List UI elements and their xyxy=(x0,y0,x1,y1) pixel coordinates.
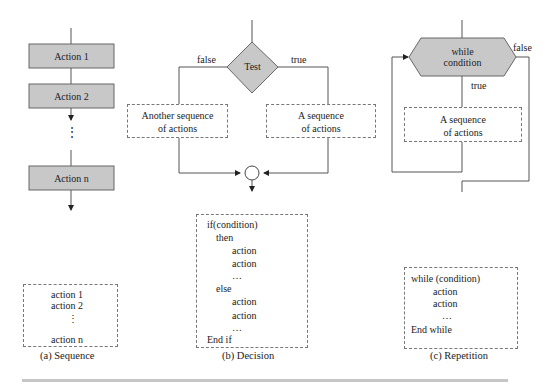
true-label: true xyxy=(291,54,307,65)
false-branch-box: Another sequence of actions xyxy=(127,104,228,138)
pseudocode-line: End while xyxy=(411,324,452,337)
condition-line: condition xyxy=(421,57,504,68)
pseudocode-line: then xyxy=(216,232,233,245)
pseudocode-line: ⋮ xyxy=(68,313,78,326)
condition-line: while xyxy=(421,46,504,57)
pseudocode-line: action xyxy=(232,245,256,258)
true-branch-line: of actions xyxy=(267,123,375,136)
pseudocode-line: action 2 xyxy=(51,300,83,313)
pseudocode-line: action xyxy=(433,286,457,299)
pseudocode-line: … xyxy=(232,322,242,335)
loop-body-box: A sequence of actions xyxy=(404,107,522,142)
false-branch-line: of actions xyxy=(128,123,227,136)
bottom-divider xyxy=(22,379,508,382)
sequence-ellipsis: ⋮ xyxy=(66,127,76,138)
repetition-pseudocode: while (condition) action action … End wh… xyxy=(404,267,518,349)
while-condition-hexagon: while condition xyxy=(421,46,504,68)
pseudocode-line: … xyxy=(442,310,452,323)
decision-pseudocode: if(condition) then action action … else … xyxy=(196,214,308,348)
action-n-box: Action n xyxy=(29,173,114,184)
pseudocode-line: End if xyxy=(207,334,232,347)
loop-true-label: true xyxy=(471,80,487,91)
test-diamond: Test xyxy=(227,61,278,72)
caption-decision: (b) Decision xyxy=(222,350,274,361)
pseudocode-line: action xyxy=(232,296,256,309)
pseudocode-line: action n xyxy=(51,334,83,347)
pseudocode-line: action xyxy=(232,310,256,323)
true-branch-box: A sequence of actions xyxy=(266,104,376,138)
loop-false-label: false xyxy=(513,42,532,53)
false-branch-line: Another sequence xyxy=(128,110,227,123)
sequence-pseudocode: action 1 action 2 ⋮ action n xyxy=(23,284,118,347)
body-line: of actions xyxy=(405,127,521,140)
true-branch-line: A sequence xyxy=(267,110,375,123)
action-1-box: Action 1 xyxy=(29,51,114,62)
pseudocode-line: action xyxy=(433,298,457,311)
pseudocode-line: else xyxy=(216,283,232,296)
caption-repetition: (c) Repetition xyxy=(430,350,488,361)
false-label: false xyxy=(197,54,216,65)
caption-sequence: (a) Sequence xyxy=(40,350,95,361)
pseudocode-line: action xyxy=(232,258,256,271)
action-2-box: Action 2 xyxy=(29,91,114,102)
body-line: A sequence xyxy=(405,114,521,127)
pseudocode-line: … xyxy=(232,270,242,283)
pseudocode-line: if(condition) xyxy=(207,219,258,232)
pseudocode-line: while (condition) xyxy=(411,273,480,286)
